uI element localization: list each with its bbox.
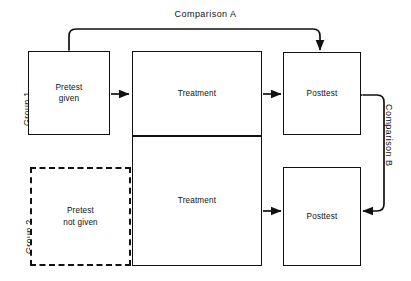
comparison-a-connector <box>69 29 320 50</box>
box-treatment-group-2[interactable]: Treatment <box>132 136 262 266</box>
box-posttest-group-1-label: Posttest <box>307 88 338 99</box>
box-posttest-group-1[interactable]: Posttest <box>283 52 361 135</box>
box-posttest-group-2-label: Posttest <box>307 211 338 222</box>
box-pretest-not-given[interactable]: Pretest not given <box>30 167 131 266</box>
box-posttest-group-2[interactable]: Posttest <box>283 167 361 266</box>
comparison-b-connector <box>363 95 384 211</box>
box-pretest-given-label: Pretest given <box>56 82 83 105</box>
box-pretest-given[interactable]: Pretest given <box>28 51 110 135</box>
box-treatment-group-1-label: Treatment <box>178 88 216 99</box>
comparison-a-label: Comparison A <box>0 9 411 19</box>
box-treatment-group-2-label: Treatment <box>178 195 216 206</box>
comparison-b-label: Comparison B <box>384 104 394 166</box>
box-treatment-group-1[interactable]: Treatment <box>132 51 262 136</box>
experimental-design-diagram: Comparison A Comparison B Group 1 Group … <box>0 0 411 281</box>
box-pretest-not-given-label: Pretest not given <box>63 205 98 228</box>
